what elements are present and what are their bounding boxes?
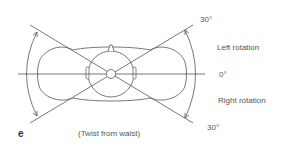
figure-caption: (Twist from waist): [78, 130, 140, 138]
right-rotation-label: Right rotation: [218, 97, 266, 105]
angle-label-top: 30°: [200, 16, 212, 24]
right-ear: [133, 67, 136, 79]
zero-angle-label: 0°: [219, 71, 227, 79]
angle-label-bottom: 30°: [207, 124, 219, 132]
pivot-point: [107, 70, 116, 79]
left-ear: [86, 67, 89, 79]
waist-twist-diagram: [0, 0, 281, 147]
nose: [108, 45, 114, 51]
panel-letter: e: [18, 129, 24, 139]
left-rotation-label: Left rotation: [217, 44, 259, 52]
